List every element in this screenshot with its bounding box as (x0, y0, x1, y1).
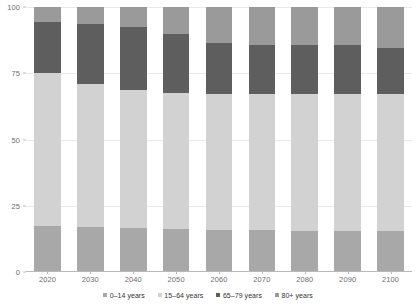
bar-segment (77, 24, 104, 84)
y-axis-tick-label: 25 (11, 201, 20, 210)
legend-swatch-icon (158, 293, 162, 297)
legend-item[interactable]: 15–64 years (158, 292, 204, 299)
x-axis-tick-label: 2100 (382, 275, 399, 284)
bar-segment (120, 228, 147, 272)
bar-segment (120, 7, 147, 27)
y-axis: 0255075100 (0, 7, 26, 272)
x-axis-tick-mark (133, 271, 134, 274)
x-axis-tick-label: 2060 (210, 275, 227, 284)
bar-segment (291, 94, 318, 230)
bar-segment (163, 93, 190, 229)
bar-segment (249, 94, 276, 230)
x-axis-tick-mark (176, 271, 177, 274)
chart-legend: 0–14 years15–64 years65–79 years80+ year… (0, 288, 416, 302)
bar-segment (120, 90, 147, 228)
bar-segment (34, 226, 61, 272)
legend-item-label: 0–14 years (110, 292, 145, 299)
bar-segment (34, 73, 61, 225)
x-axis-tick-mark (391, 271, 392, 274)
bar-segment (334, 7, 361, 45)
bar-2090 (334, 7, 361, 272)
x-axis-tick-mark (47, 271, 48, 274)
x-axis: 202020302040205020602070208020902100 (26, 273, 412, 287)
x-axis-tick-label: 2090 (339, 275, 356, 284)
bar-segment (206, 7, 233, 43)
bar-segment (291, 231, 318, 272)
bar-segment (249, 45, 276, 94)
bar-segment (377, 231, 404, 272)
bar-segment (77, 84, 104, 227)
bar-segment (34, 22, 61, 74)
bar-2070 (249, 7, 276, 272)
legend-swatch-icon (216, 293, 220, 297)
bar-segment (34, 7, 61, 22)
bar-segment (206, 230, 233, 272)
x-axis-tick-mark (90, 271, 91, 274)
x-axis-tick-label: 2080 (296, 275, 313, 284)
bar-segment (377, 48, 404, 94)
legend-item[interactable]: 0–14 years (103, 292, 145, 299)
y-axis-tick-label: 75 (11, 69, 20, 78)
stacked-bar-chart: 0255075100 20202030204020502060207020802… (0, 0, 416, 305)
bar-segment (334, 94, 361, 230)
bar-segment (206, 94, 233, 229)
legend-item-label: 80+ years (281, 292, 312, 299)
legend-item[interactable]: 80+ years (275, 292, 313, 299)
bar-segment (334, 231, 361, 272)
bar-segment (163, 7, 190, 34)
y-axis-tick-label: 100 (7, 3, 20, 12)
y-axis-tick-label: 0 (16, 268, 20, 277)
bar-segment (291, 45, 318, 94)
bar-2020 (34, 7, 61, 272)
bar-segment (377, 94, 404, 231)
bar-segment (249, 7, 276, 45)
bar-2050 (163, 7, 190, 272)
bar-segment (77, 227, 104, 272)
x-axis-tick-label: 2040 (125, 275, 142, 284)
bar-2100 (377, 7, 404, 272)
x-axis-tick-mark (348, 271, 349, 274)
x-axis-tick-label: 2050 (168, 275, 185, 284)
y-axis-tick-label: 50 (11, 135, 20, 144)
bar-2040 (120, 7, 147, 272)
bar-segment (291, 7, 318, 45)
x-axis-tick-mark (305, 271, 306, 274)
legend-swatch-icon (275, 293, 279, 297)
x-axis-tick-mark (262, 271, 263, 274)
bar-segment (163, 229, 190, 272)
legend-item-label: 65–79 years (223, 292, 262, 299)
legend-swatch-icon (103, 293, 107, 297)
x-axis-tick-mark (219, 271, 220, 274)
bar-segment (334, 45, 361, 94)
bar-2060 (206, 7, 233, 272)
bar-segment (77, 7, 104, 24)
bar-segment (163, 34, 190, 94)
plot-area (26, 7, 412, 272)
bar-segment (249, 230, 276, 272)
bar-2080 (291, 7, 318, 272)
bar-segment (206, 43, 233, 95)
bar-segment (377, 7, 404, 48)
x-axis-tick-label: 2030 (82, 275, 99, 284)
legend-item-label: 15–64 years (164, 292, 203, 299)
x-axis-tick-label: 2070 (253, 275, 270, 284)
bar-segment (120, 27, 147, 91)
x-axis-tick-label: 2020 (39, 275, 56, 284)
bar-2030 (77, 7, 104, 272)
legend-item[interactable]: 65–79 years (216, 292, 262, 299)
bar-group (26, 7, 412, 272)
